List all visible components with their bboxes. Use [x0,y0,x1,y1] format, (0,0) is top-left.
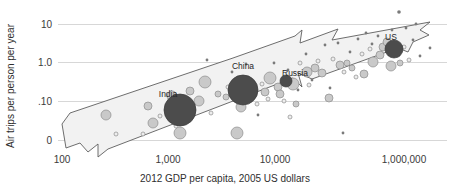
data-point [354,75,358,79]
x-tick-label: 100 [54,154,71,165]
data-point [305,53,308,56]
data-point [293,101,299,107]
data-point [288,115,292,119]
data-point [255,102,259,106]
annotation-china: China [232,61,254,71]
data-point [405,27,408,30]
data-point [376,51,384,59]
data-point [148,118,158,128]
data-point [101,110,111,120]
x-tick-label: 1,000,000 [382,154,427,165]
data-point [419,55,422,58]
data-point [386,61,396,71]
data-point [342,132,345,135]
data-point [260,82,264,86]
data-point [349,51,352,54]
data-point [349,65,355,71]
data-point [325,94,333,102]
data-point [415,23,418,26]
chart-container: IndiaChinaRussiaUS 101.0.100 1001,00010,… [0,0,451,191]
data-point [199,76,211,88]
y-tick-label: 10 [41,19,53,30]
data-point [276,90,284,98]
data-point [186,87,194,95]
data-point [273,62,276,65]
data-point [407,58,411,62]
data-point [329,87,332,90]
data-point [307,83,311,87]
data-point [231,71,234,74]
x-tick-label: 10,000 [260,154,291,165]
x-axis-title: 2012 GDP per capita, 2005 US dollars [140,173,310,184]
data-point [371,43,374,46]
data-point [357,38,360,41]
data-point [257,114,260,117]
data-point [337,42,340,45]
data-point [297,89,300,92]
data-point [377,35,380,38]
data-point [206,59,209,62]
data-point [114,132,118,136]
data-point [342,70,346,74]
scatter-plot: IndiaChinaRussiaUS 101.0.100 1001,00010,… [0,0,451,191]
data-point [311,79,314,82]
x-tick-label: 1,000 [155,154,180,165]
data-point [266,97,270,101]
data-point [194,96,204,106]
data-point [209,111,213,115]
x-axis-ticks: 1001,00010,0001,000,000 [54,154,427,165]
data-point [174,127,186,139]
annotation-us: US [385,32,397,42]
y-axis-ticks: 101.0.100 [38,19,52,146]
annotation-india: India [159,89,178,99]
y-tick-label: 0 [46,135,52,146]
data-point [298,61,302,65]
data-point [360,52,364,56]
data-point [141,132,145,136]
data-point-us [385,40,403,58]
data-point [368,57,378,67]
data-point [412,39,415,42]
data-point [360,70,368,78]
data-point [144,102,152,110]
y-tick-label: .10 [38,96,52,107]
data-point [397,10,401,14]
data-point [223,94,229,100]
data-point [282,99,286,103]
data-point [324,44,327,47]
data-point [318,69,326,77]
data-point-china [228,75,258,105]
y-axis-title: Air trips per person per year [5,23,16,148]
bubble-layer [101,10,431,139]
data-point [331,57,335,61]
data-point [264,72,276,84]
data-point [261,88,269,96]
y-tick-label: 1.0 [38,57,52,68]
data-point [365,32,368,35]
data-point [368,47,372,51]
data-point [316,59,320,63]
data-point [215,91,221,97]
data-point [429,47,432,50]
data-point [231,127,243,139]
data-point [344,60,350,66]
data-point [311,64,319,72]
data-point [158,114,162,118]
data-point [391,29,394,32]
annotation-russia: Russia [282,68,308,78]
data-point [336,61,344,69]
data-point [397,60,403,66]
